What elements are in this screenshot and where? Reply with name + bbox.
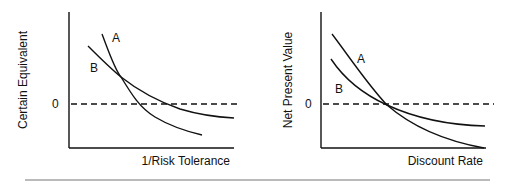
curve-b (88, 46, 234, 118)
chart-net-present-value: Net Present Value 0 A B Discount Rate (281, 12, 494, 168)
chart-certain-equivalent: Certain Equivalent 0 A B 1/Risk Toleranc… (16, 12, 240, 168)
y-axis-label: Net Present Value (281, 31, 295, 128)
figure: Certain Equivalent 0 A B 1/Risk Toleranc… (0, 0, 507, 185)
curve-b-label: B (335, 82, 343, 96)
curve-a-label: A (357, 52, 365, 66)
curve-a (332, 34, 484, 148)
curve-b-label: B (90, 61, 98, 75)
zero-tick-label: 0 (52, 97, 59, 111)
x-axis-label: Discount Rate (408, 154, 484, 168)
x-axis-label: 1/Risk Tolerance (142, 154, 231, 168)
y-axis-label: Certain Equivalent (16, 30, 30, 129)
curve-b (331, 59, 485, 126)
curve-a-label: A (112, 31, 120, 45)
curve-a (102, 34, 202, 135)
zero-tick-label: 0 (305, 97, 312, 111)
